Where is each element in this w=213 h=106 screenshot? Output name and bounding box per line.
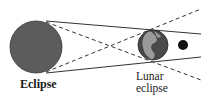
lunar-eclipse-label-line1: Lunar (136, 71, 168, 83)
lower-solid-ray (46, 57, 201, 73)
ascending-dashed-ray (46, 9, 201, 72)
upper-solid-ray (46, 21, 201, 34)
lunar-eclipse-label-line2: eclipse (136, 83, 168, 95)
sun-icon (10, 21, 62, 73)
lunar-eclipse-diagram: Eclipse Lunar eclipse (0, 0, 213, 106)
eclipse-label: Eclipse (20, 78, 57, 90)
lunar-eclipse-label: Lunar eclipse (136, 71, 168, 94)
earth-icon (138, 30, 168, 60)
moon-icon (178, 40, 188, 50)
descending-dashed-ray (46, 22, 201, 80)
